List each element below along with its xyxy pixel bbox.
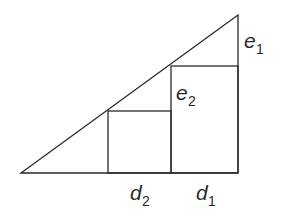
label-d1: d 1 <box>196 181 216 209</box>
label-d2: d 2 <box>130 181 150 209</box>
svg-text:1: 1 <box>256 41 264 57</box>
svg-text:e: e <box>244 29 256 52</box>
right-triangle <box>21 15 238 173</box>
small-rectangle <box>108 111 171 173</box>
triangle-diagram: e 1 e 2 d 2 d 1 <box>0 0 281 218</box>
svg-text:e: e <box>176 81 188 104</box>
svg-text:1: 1 <box>208 193 216 209</box>
label-e1: e 1 <box>244 29 264 57</box>
svg-text:2: 2 <box>142 193 150 209</box>
svg-text:2: 2 <box>188 93 196 109</box>
label-e2: e 2 <box>176 81 196 109</box>
